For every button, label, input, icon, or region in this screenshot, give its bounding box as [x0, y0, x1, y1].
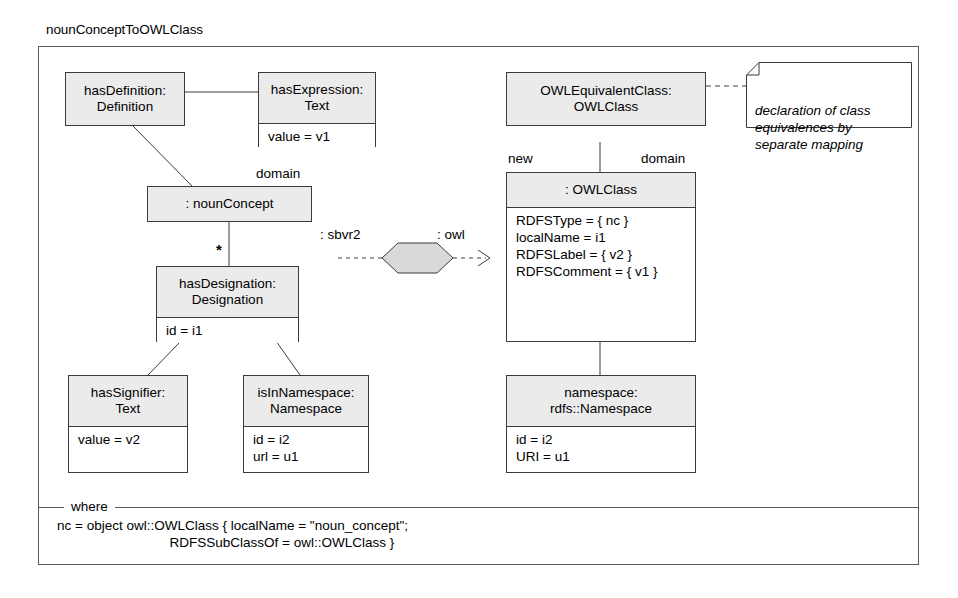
noun-concept-header: : nounConcept: [148, 187, 311, 221]
where-divider: [39, 507, 918, 508]
has-signifier-attributes: value = v2: [69, 427, 187, 452]
has-expression-header: hasExpression: Text: [259, 73, 375, 123]
label-new: new: [508, 151, 533, 167]
namespace-header: namespace: rdfs::Namespace: [507, 376, 695, 426]
has-definition-header: hasDefinition: Definition: [66, 73, 184, 125]
label-transform-source: : sbvr2: [320, 227, 361, 243]
object-box-is-in-namespace[interactable]: isInNamespace: Namespace id = i2 url = u…: [243, 375, 369, 473]
namespace-attributes: id = i2 URI = u1: [507, 427, 695, 469]
where-label: where: [64, 498, 115, 516]
has-signifier-header: hasSignifier: Text: [69, 376, 187, 426]
has-designation-attributes: id = i1: [157, 318, 298, 343]
note-text: declaration of class equivalences by sep…: [755, 102, 906, 153]
note-declaration-of-class-equivalences: declaration of class equivalences by sep…: [746, 62, 912, 128]
label-domain-left: domain: [256, 166, 300, 182]
where-clause-text: nc = object owl::OWLClass { localName = …: [57, 517, 408, 551]
object-box-owl-equivalent-class[interactable]: OWLEquivalentClass: OWLClass: [506, 72, 706, 126]
object-box-noun-concept[interactable]: : nounConcept: [147, 186, 312, 222]
object-box-has-definition[interactable]: hasDefinition: Definition: [65, 72, 185, 126]
label-transform-target: : owl: [437, 227, 465, 243]
object-box-owl-class[interactable]: : OWLClass RDFSType = { nc } localName =…: [506, 172, 696, 342]
owl-equivalent-class-header: OWLEquivalentClass: OWLClass: [507, 73, 705, 125]
label-domain-right: domain: [641, 151, 685, 167]
diagram-canvas: nounConceptToOWLClass where nc = object …: [0, 0, 958, 598]
label-multiplicity-star: *: [216, 244, 222, 256]
object-box-has-expression[interactable]: hasExpression: Text value = v1: [258, 72, 376, 147]
has-designation-header: hasDesignation: Designation: [157, 267, 298, 317]
frame-title: nounConceptToOWLClass: [46, 22, 203, 37]
is-in-namespace-attributes: id = i2 url = u1: [244, 427, 368, 469]
object-box-has-signifier[interactable]: hasSignifier: Text value = v2: [68, 375, 188, 473]
owl-class-attributes: RDFSType = { nc } localName = i1 RDFSLab…: [507, 208, 695, 284]
owl-class-header: : OWLClass: [507, 173, 695, 207]
object-box-has-designation[interactable]: hasDesignation: Designation id = i1: [156, 266, 299, 342]
has-expression-attributes: value = v1: [259, 124, 375, 149]
is-in-namespace-header: isInNamespace: Namespace: [244, 376, 368, 426]
object-box-namespace[interactable]: namespace: rdfs::Namespace id = i2 URI =…: [506, 375, 696, 473]
